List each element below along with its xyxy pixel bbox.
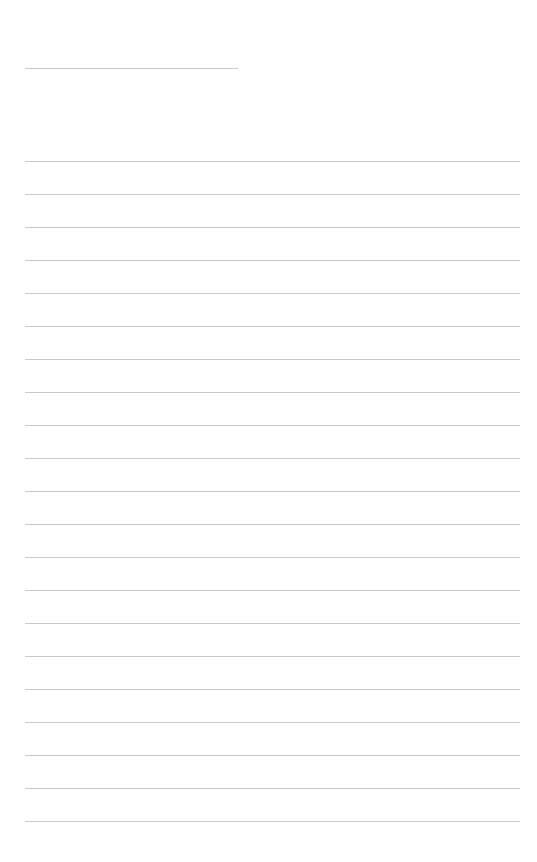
ruled-line[interactable] xyxy=(25,821,520,822)
ruled-line[interactable] xyxy=(25,656,520,657)
ruled-line[interactable] xyxy=(25,557,520,558)
ruled-line[interactable] xyxy=(25,425,520,426)
ruled-line[interactable] xyxy=(25,590,520,591)
ruled-line[interactable] xyxy=(25,392,520,393)
ruled-line[interactable] xyxy=(25,359,520,360)
title-line[interactable] xyxy=(25,68,238,69)
ruled-line[interactable] xyxy=(25,722,520,723)
ruled-line[interactable] xyxy=(25,788,520,789)
ruled-line[interactable] xyxy=(25,293,520,294)
ruled-line[interactable] xyxy=(25,524,520,525)
ruled-line[interactable] xyxy=(25,161,520,162)
ruled-line[interactable] xyxy=(25,260,520,261)
ruled-line[interactable] xyxy=(25,689,520,690)
ruled-line[interactable] xyxy=(25,458,520,459)
ruled-line[interactable] xyxy=(25,623,520,624)
ruled-line[interactable] xyxy=(25,194,520,195)
ruled-line[interactable] xyxy=(25,755,520,756)
ruled-line[interactable] xyxy=(25,326,520,327)
ruled-line[interactable] xyxy=(25,491,520,492)
ruled-line[interactable] xyxy=(25,227,520,228)
lined-paper-page xyxy=(0,0,537,862)
